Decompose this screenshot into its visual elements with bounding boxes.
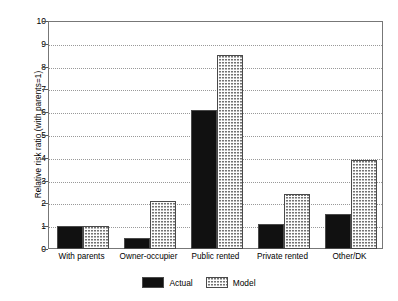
chart-legend: ActualModel [0, 277, 398, 288]
legend-entry-model[interactable]: Model [206, 277, 256, 288]
x-axis-ticks: With parentsOwner-occupierPublic rentedP… [48, 252, 383, 268]
bar-model[interactable] [351, 160, 377, 249]
bar-actual[interactable] [124, 238, 150, 249]
bar-actual[interactable] [57, 226, 83, 249]
bar-model[interactable] [284, 194, 310, 249]
x-tick-label: With parents [59, 252, 105, 261]
bar-model[interactable] [150, 201, 176, 249]
bar-group [316, 21, 383, 249]
bar-actual[interactable] [325, 214, 351, 249]
legend-label: Actual [169, 278, 192, 288]
x-tick-label: Public rented [192, 252, 240, 261]
bar-actual[interactable] [191, 110, 217, 249]
bar-model[interactable] [83, 226, 109, 249]
legend-swatch-model [206, 277, 228, 288]
x-tick-label: Private rented [257, 252, 308, 261]
bar-group [115, 21, 182, 249]
bar-model[interactable] [217, 55, 243, 249]
x-tick-label: Other/DK [332, 252, 366, 261]
legend-label: Model [233, 278, 256, 288]
x-tick-label: Owner-occupier [120, 252, 178, 261]
bar-group [48, 21, 115, 249]
legend-entry-actual[interactable]: Actual [142, 277, 192, 288]
legend-swatch-actual [142, 277, 164, 288]
bar-group [249, 21, 316, 249]
y-tick-mark [42, 249, 48, 250]
bar-group [182, 21, 249, 249]
bar-groups [48, 21, 383, 249]
bar-chart-figure: Relative risk ratio (with parents=1) 012… [0, 0, 398, 301]
bar-actual[interactable] [258, 224, 284, 249]
